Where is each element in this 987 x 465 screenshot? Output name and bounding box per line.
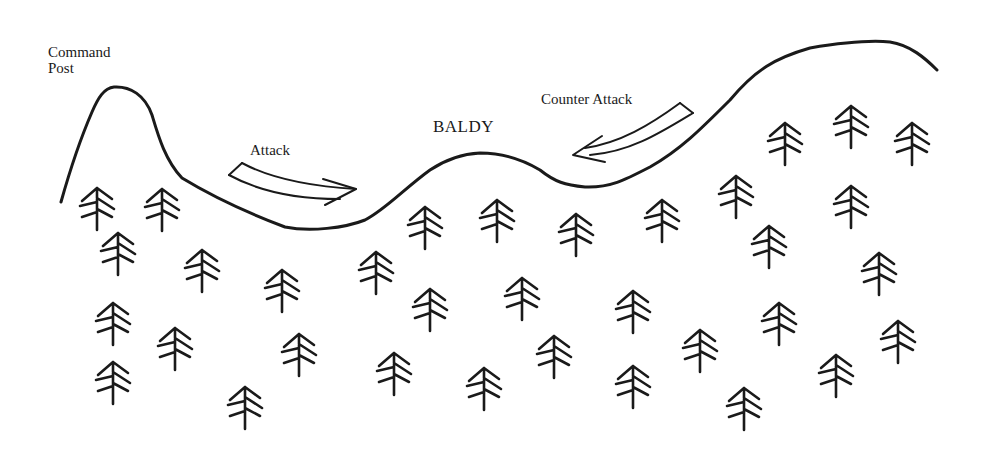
terrain-diagram <box>0 0 987 465</box>
attack-label: Attack <box>250 143 290 159</box>
pine-tree-icon <box>359 252 393 294</box>
pine-tree-icon <box>185 250 219 292</box>
pine-tree-icon <box>505 278 539 320</box>
pine-tree-icon <box>616 366 650 408</box>
pine-tree-icon <box>719 176 753 218</box>
counter-attack-label: Counter Attack <box>541 92 632 108</box>
pine-tree-icon <box>96 362 130 404</box>
pine-tree-icon <box>834 106 868 148</box>
pine-tree-icon <box>537 336 571 378</box>
pine-tree-icon <box>683 330 717 372</box>
pine-tree-icon <box>819 355 853 397</box>
pine-tree-icon <box>645 200 679 242</box>
pine-tree-icon <box>480 200 514 242</box>
command-post-label-line1: Command <box>48 45 111 61</box>
pine-tree-icon <box>762 303 796 345</box>
pine-tree-icon <box>80 188 114 230</box>
pine-tree-icon <box>282 334 316 376</box>
pine-tree-icon <box>101 233 135 275</box>
pine-tree-icon <box>467 368 501 410</box>
pine-tree-icon <box>377 353 411 395</box>
pine-tree-icon <box>895 123 929 165</box>
pine-tree-icon <box>228 387 262 429</box>
pine-tree-icon <box>834 186 868 228</box>
pine-tree-icon <box>881 321 915 363</box>
counter-attack-arrow-icon <box>573 103 693 162</box>
pine-tree-icon <box>158 328 192 370</box>
pine-tree-icon <box>265 270 299 312</box>
pine-tree-icon <box>768 123 802 165</box>
baldy-label: BALDY <box>433 118 494 136</box>
pine-tree-icon <box>616 291 650 333</box>
command-post-label-line2: Post <box>48 61 111 77</box>
pine-tree-icon <box>727 388 761 430</box>
pine-tree-icon <box>413 289 447 331</box>
pine-tree-icon <box>752 226 786 268</box>
command-post-label: Command Post <box>48 45 111 77</box>
pine-tree-icon <box>145 189 179 231</box>
pine-tree-icon <box>559 214 593 256</box>
pine-tree-icon <box>408 207 442 249</box>
pine-tree-icon <box>862 253 896 295</box>
attack-arrow-icon <box>229 163 356 205</box>
pine-tree-icon <box>96 303 130 345</box>
